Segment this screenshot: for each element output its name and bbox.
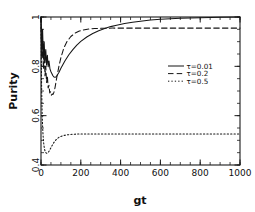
x-tick-label: 200 [72,168,89,178]
x-axis-tick-labels: 02004006008001000 [38,168,252,178]
y-axis-tick-labels: 0.40.60.81 [31,14,41,172]
x-axis-major-ticks [41,17,240,165]
x-tick-label: 1000 [229,168,252,178]
chart-canvas: 02004006008001000 0.40.60.81 gt Purity τ… [0,0,255,212]
y-tick-label: 0.8 [31,59,41,74]
y-axis-title: Purity [7,72,20,110]
curve-tau-0-2 [41,17,240,95]
y-tick-label: 0.6 [31,108,41,123]
x-axis-minor-ticks [41,17,240,165]
x-axis-title: gt [133,194,146,207]
y-axis-major-ticks [41,17,240,165]
y-tick-label: 1 [31,14,41,20]
legend-label-tau-0-5: τ=0.5 [187,77,209,86]
plot-frame [41,17,240,165]
y-axis-minor-ticks [41,17,240,165]
x-tick-label: 600 [152,168,169,178]
purity-vs-gt-chart: 02004006008001000 0.40.60.81 gt Purity τ… [0,0,255,212]
x-tick-label: 400 [112,168,129,178]
chart-legend: τ=0.01τ=0.2τ=0.5 [168,62,213,86]
data-curves [41,17,240,153]
y-tick-label: 0.4 [31,158,41,173]
curve-tau-0-5 [41,17,240,153]
x-tick-label: 800 [192,168,209,178]
